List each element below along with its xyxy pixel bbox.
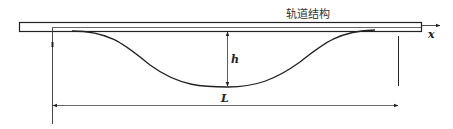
diagram-svg: h L x 轨道结构 [0, 0, 453, 129]
track-deformation-diagram: h L x 轨道结构 [0, 0, 453, 129]
settlement-curve [72, 30, 375, 87]
length-label: L [220, 92, 229, 105]
height-label: h [231, 53, 239, 66]
axis-label-x: x [427, 28, 435, 41]
track-structure-beam [20, 23, 422, 32]
track-structure-title: 轨道结构 [286, 7, 330, 21]
